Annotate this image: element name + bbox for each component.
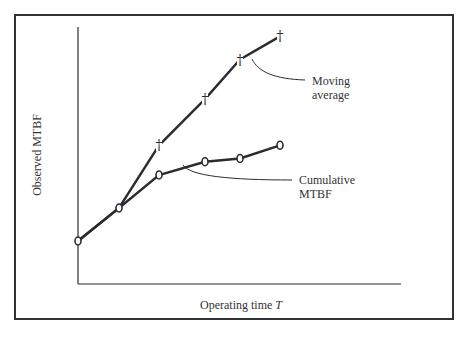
dagger-marker: †	[202, 91, 209, 107]
x-axis-label-var: T	[275, 298, 282, 312]
dagger-marker: †	[277, 28, 284, 44]
cumulative-label-line2: MTBF	[299, 187, 355, 201]
moving-average-label-line1: Moving	[312, 74, 350, 88]
circle-marker	[156, 171, 162, 179]
cumulative-label-line1: Cumulative	[299, 173, 355, 187]
circle-marker	[237, 155, 243, 163]
x-axis-label: Operating time T	[200, 298, 282, 313]
circle-marker	[277, 141, 283, 149]
dagger-marker: †	[156, 137, 163, 153]
x-axis-label-text: Operating time	[200, 298, 272, 312]
moving-average-label-line2: average	[312, 88, 350, 102]
series-line	[78, 145, 280, 241]
moving-average-leader	[252, 59, 305, 80]
dagger-marker: †	[237, 52, 244, 68]
cumulative-leader	[183, 165, 292, 180]
moving-average-annotation: Moving average	[312, 74, 350, 102]
chart-plot: ††††	[0, 0, 473, 338]
circle-marker	[202, 158, 208, 166]
series-cumulative-mtbf	[75, 141, 283, 245]
circle-marker	[116, 204, 122, 212]
circle-marker	[75, 237, 81, 245]
series-line	[78, 36, 280, 241]
y-axis-label: Observed MTBF	[30, 114, 45, 196]
cumulative-annotation: Cumulative MTBF	[299, 173, 355, 201]
